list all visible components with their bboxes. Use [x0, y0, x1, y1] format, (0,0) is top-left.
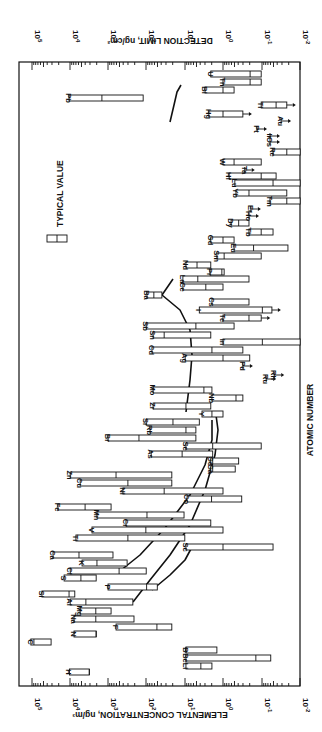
upper-limit-arrow-icon [256, 214, 259, 218]
element-label: Be [181, 653, 190, 663]
range-box [209, 111, 243, 117]
upper-limit-arrow-icon [258, 207, 261, 211]
upper-limit-arrow-icon [277, 134, 280, 138]
upper-limit-arrow-icon [264, 127, 267, 131]
element-label: Al [65, 598, 74, 606]
element-label: Re [268, 147, 277, 157]
element-bar-s: S [59, 575, 96, 581]
element-label: Nb [207, 393, 216, 403]
element-label: Cl [65, 567, 74, 575]
element-label: F [111, 625, 120, 630]
axis-ticks: 10510510410410310310210210110110010010-1… [32, 30, 311, 713]
element-label: Cd [147, 345, 156, 355]
element-label: Mg [75, 606, 84, 617]
range-box [153, 387, 212, 393]
element-bar-tb: Tb [244, 227, 273, 237]
element-bar-ni: Ni [118, 487, 223, 495]
element-label: Ta [240, 166, 249, 175]
upper-limit-arrow-icon [278, 308, 281, 312]
element-label: Ir [265, 133, 274, 138]
element-label: Si [37, 590, 46, 597]
range-box [126, 520, 211, 526]
element-label: B [181, 647, 190, 653]
element-bar-tl: Tl [256, 102, 296, 109]
range-box [123, 488, 223, 494]
range-box [70, 599, 133, 605]
element-label: Th [218, 77, 227, 87]
element-bar-hg: Hg [204, 109, 252, 119]
upper-limit-arrow-icon [252, 168, 255, 172]
element-label: Se [181, 441, 190, 450]
element-bar-mo: Mo [148, 385, 212, 396]
element-bar-be: Be [181, 653, 271, 663]
upper-limit-arrow-icon [281, 373, 284, 377]
element-bar-in: In [218, 339, 300, 346]
element-label: Tl [256, 102, 265, 109]
element-label: Ti [71, 535, 80, 542]
element-label: Ce [178, 282, 187, 292]
element-label: Sm [212, 250, 221, 262]
element-label: Tm [265, 195, 274, 207]
element-bar-eu: Eu [229, 243, 288, 253]
range-box [223, 79, 261, 85]
element-label: Er [246, 205, 255, 213]
element-bar-sc: Sc [181, 542, 273, 551]
element-label: Tb [244, 227, 253, 237]
range-box [53, 552, 113, 558]
upper-limit-arrow-icon [249, 112, 252, 116]
range-box [69, 95, 143, 101]
element-label: Sn [148, 330, 157, 340]
element-bar-cd: Cd [147, 345, 243, 355]
right-axis-title: ATOMIC NUMBER [305, 384, 315, 456]
element-bar-si: Si [37, 590, 75, 597]
range-box [223, 339, 300, 345]
element-bar-p: P [103, 584, 157, 590]
element-label: Rb [145, 425, 154, 435]
bottom-tick-label: 10-2 [301, 698, 311, 713]
element-bar-ti: Ti [71, 535, 185, 542]
element-label: Dy [226, 218, 235, 228]
element-bar-pb: Pb [64, 93, 143, 103]
element-bar-th: Th [218, 77, 261, 87]
element-label: H [64, 669, 73, 674]
element-bar-sr: Sr [141, 418, 199, 426]
range-box [80, 480, 172, 486]
element-bar-zr: Zr [148, 402, 211, 410]
element-bar-n: N [69, 631, 96, 637]
range-box [152, 347, 243, 353]
element-bar-ce: Ce [178, 282, 223, 292]
element-bar-cl: Cl [65, 567, 146, 575]
element-bar-br: Br [103, 434, 196, 442]
range-box [92, 527, 223, 533]
bottom-tick-label: 101 [186, 698, 196, 711]
element-label: Pd [238, 361, 247, 371]
element-label: Cs [207, 297, 216, 307]
element-bar-b: B [181, 647, 217, 653]
bottom-tick-label: 105 [33, 698, 43, 711]
element-label: Au [276, 116, 285, 126]
range-box [229, 173, 276, 179]
upper-limit-arrow-icon [267, 316, 270, 320]
upper-limit-arrow-icon [277, 140, 280, 144]
element-bar-rh: Rh [269, 370, 284, 380]
element-bar-cr: Cr [121, 519, 211, 527]
element-range-bars: HLiBeBCNFNaMgAlSiSClPKCaScTiVCrMnFeCoNiC… [26, 71, 300, 675]
bottom-axis-title: ELEMENTAL CONCENTRATION, ng/m³ [72, 710, 228, 720]
element-label: K [77, 560, 86, 566]
element-label: Cr [121, 519, 130, 527]
legend-label: TYPICAL VALUE [55, 160, 65, 227]
element-bar-i: I [194, 307, 281, 313]
element-bar-y: Y [197, 411, 223, 417]
legend: TYPICAL VALUE [47, 160, 67, 242]
element-bar-bi: Bi [200, 86, 234, 94]
element-bar-tm: Tm [265, 195, 300, 207]
range-box [186, 544, 273, 550]
element-bar-lu: Lu [230, 178, 300, 188]
element-bar-li: Li [181, 663, 212, 670]
element-bar-re: Re [268, 147, 300, 157]
top-tick-label: 10-1 [263, 30, 273, 45]
range-box [223, 159, 261, 165]
element-label: Ca [48, 550, 57, 560]
element-label: As [146, 449, 155, 459]
element-label: Zn [65, 470, 74, 480]
